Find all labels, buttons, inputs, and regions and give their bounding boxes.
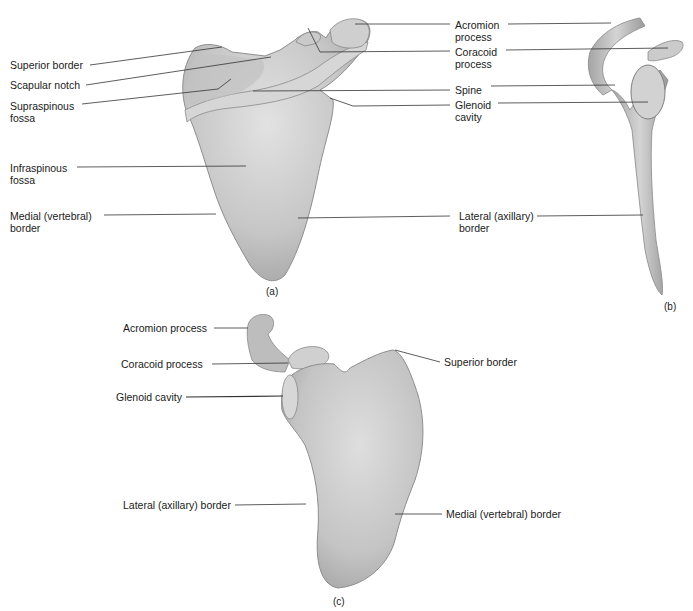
caption-b: (b) [664, 301, 676, 312]
label-a-scapular-notch: Scapular notch [10, 79, 80, 91]
label-a-medial-border: Medial (vertebral) border [10, 210, 92, 234]
label-glenoid-cavity: Glenoid cavity [455, 99, 491, 123]
label-lateral-border: Lateral (axillary) border [459, 210, 534, 234]
caption-c: (c) [333, 596, 345, 607]
label-c-acromion-process: Acromion process [123, 322, 207, 334]
scapula-anterior-view [247, 314, 423, 588]
label-c-coracoid-process: Coracoid process [121, 358, 203, 370]
label-c-superior-border: Superior border [444, 356, 517, 368]
label-c-glenoid-cavity: Glenoid cavity [116, 391, 182, 403]
label-a-supraspinous-fossa: Supraspinous fossa [10, 100, 74, 124]
scapula-lateral-view [588, 18, 683, 295]
leader-b-lateral-border [537, 215, 643, 216]
scapula-a-acromion [330, 19, 369, 48]
leader-a-medial-border [104, 214, 216, 215]
leader-c-lateral-border [235, 504, 306, 505]
leader-b-acromion [508, 23, 611, 24]
label-c-medial-border: Medial (vertebral) border [446, 508, 561, 520]
leader-a-lateral-border [298, 216, 450, 218]
label-c-lateral-border: Lateral (axillary) border [123, 499, 231, 511]
label-a-superior-border: Superior border [10, 59, 83, 71]
leader-b-coracoid [506, 48, 668, 50]
scapula-figure [0, 0, 693, 611]
label-coracoid-process: Coracoid process [455, 46, 497, 70]
scapula-posterior-view [183, 19, 370, 281]
leader-c-glenoid [186, 396, 283, 397]
label-a-infraspinous-fossa: Infraspinous fossa [10, 162, 67, 186]
scapula-c-body [281, 350, 422, 588]
leader-a-glenoid [330, 98, 450, 106]
scapula-c-glenoid-cavity [282, 375, 298, 419]
label-spine: Spine [455, 84, 482, 96]
scapula-b-glenoid-cavity [631, 65, 665, 119]
scapula-b-coracoid [648, 40, 683, 60]
label-acromion-process: Acromion process [455, 19, 499, 43]
caption-a: (a) [266, 286, 278, 297]
